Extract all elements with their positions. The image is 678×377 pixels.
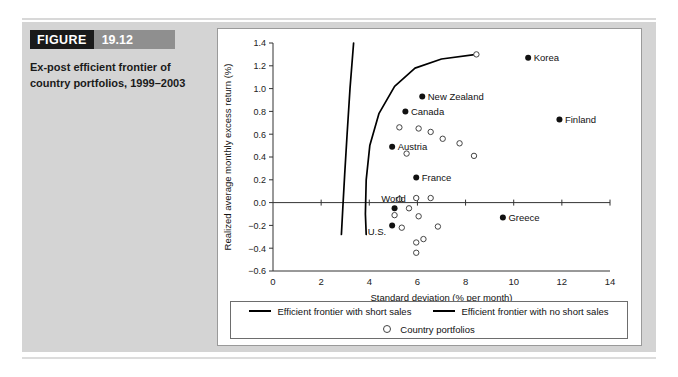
y-tick-label: 1.0 bbox=[253, 84, 266, 94]
labeled-country-point bbox=[392, 205, 398, 211]
bottom-divider bbox=[22, 357, 656, 359]
labeled-country-point bbox=[389, 222, 395, 228]
y-tick-label: 1.2 bbox=[253, 61, 266, 71]
chart-legend: Efficient frontier with short sales Effi… bbox=[230, 301, 628, 339]
country-portfolio-point bbox=[474, 52, 479, 57]
legend-row-frontiers: Efficient frontier with short sales Effi… bbox=[231, 302, 627, 320]
country-portfolio-point bbox=[397, 125, 402, 130]
x-tick-label: 10 bbox=[508, 276, 519, 287]
country-point-label: U.S. bbox=[368, 226, 386, 237]
legend-row-portfolios: Country portfolios bbox=[231, 320, 627, 338]
country-point-label: Korea bbox=[534, 52, 560, 63]
frontier-with-short-sales bbox=[341, 43, 353, 235]
y-tick-label: 0.2 bbox=[253, 175, 266, 185]
x-tick-label: 4 bbox=[367, 276, 372, 287]
y-axis-label: Realized average monthly excess return (… bbox=[222, 64, 233, 251]
country-point-label: New Zealand bbox=[428, 91, 484, 102]
country-point-label: World bbox=[381, 193, 406, 204]
figure-description: Ex-post efficient frontier of country po… bbox=[30, 60, 190, 92]
country-point-label: Finland bbox=[565, 114, 596, 125]
country-point-label: Canada bbox=[411, 106, 445, 117]
legend-label-short-sales: Efficient frontier with short sales bbox=[277, 306, 411, 317]
country-portfolio-point bbox=[414, 195, 419, 200]
line-icon bbox=[249, 310, 271, 312]
country-point-label: France bbox=[422, 172, 452, 183]
open-circle-icon bbox=[383, 325, 391, 333]
labeled-country-point bbox=[413, 175, 419, 181]
x-tick-label: 8 bbox=[463, 276, 468, 287]
country-portfolio-point bbox=[471, 153, 476, 158]
legend-label-country-portfolios: Country portfolios bbox=[400, 324, 474, 335]
figure-tag-word: FIGURE bbox=[30, 30, 94, 49]
labeled-country-point bbox=[402, 108, 408, 114]
country-portfolio-point bbox=[414, 240, 419, 245]
country-portfolio-point bbox=[440, 136, 445, 141]
labeled-country-point bbox=[500, 214, 506, 220]
labeled-country-point bbox=[556, 116, 562, 122]
country-portfolio-point bbox=[435, 224, 440, 229]
country-portfolio-point bbox=[457, 141, 462, 146]
labeled-country-point bbox=[525, 55, 531, 61]
y-tick-label: −0.4 bbox=[248, 244, 266, 254]
y-tick-label: 0.4 bbox=[253, 152, 266, 162]
country-point-label: Greece bbox=[508, 212, 539, 223]
y-tick-label: 1.4 bbox=[253, 38, 266, 48]
y-tick-label: 0.8 bbox=[253, 107, 266, 117]
labeled-country-point bbox=[419, 94, 425, 100]
country-portfolio-point bbox=[392, 212, 397, 217]
figure-tag-number: 19.12 bbox=[94, 30, 175, 49]
chart-panel: −0.6−0.4−0.20.00.20.40.60.81.01.21.40246… bbox=[217, 28, 642, 346]
top-divider bbox=[22, 18, 656, 20]
x-tick-label: 0 bbox=[270, 276, 275, 287]
legend-item-no-short-sales: Efficient frontier with no short sales bbox=[433, 306, 608, 317]
scatter-plot: −0.6−0.4−0.20.00.20.40.60.81.01.21.40246… bbox=[218, 29, 641, 345]
country-portfolio-point bbox=[416, 126, 421, 131]
labeled-country-point bbox=[389, 144, 395, 150]
country-portfolio-point bbox=[416, 214, 421, 219]
legend-item-short-sales: Efficient frontier with short sales bbox=[249, 306, 411, 317]
x-tick-label: 6 bbox=[415, 276, 420, 287]
country-portfolio-point bbox=[406, 206, 411, 211]
country-portfolio-point bbox=[421, 236, 426, 241]
x-tick-label: 12 bbox=[557, 276, 568, 287]
country-portfolio-point bbox=[414, 250, 419, 255]
country-portfolio-point bbox=[399, 225, 404, 230]
figure-tag: FIGURE 19.12 bbox=[30, 30, 175, 49]
y-tick-label: −0.6 bbox=[248, 266, 266, 276]
y-tick-label: 0.0 bbox=[253, 198, 266, 208]
line-icon bbox=[433, 310, 455, 312]
figure-caption-block: FIGURE 19.12 Ex-post efficient frontier … bbox=[30, 30, 205, 92]
legend-label-no-short-sales: Efficient frontier with no short sales bbox=[461, 306, 608, 317]
x-tick-label: 14 bbox=[605, 276, 616, 287]
country-portfolio-point bbox=[428, 129, 433, 134]
country-point-label: Austria bbox=[398, 141, 428, 152]
y-tick-label: 0.6 bbox=[253, 130, 266, 140]
country-portfolio-point bbox=[428, 195, 433, 200]
y-tick-label: −0.2 bbox=[248, 221, 266, 231]
figure-page: FIGURE 19.12 Ex-post efficient frontier … bbox=[0, 0, 678, 377]
x-tick-label: 2 bbox=[318, 276, 323, 287]
legend-item-country-portfolios: Country portfolios bbox=[383, 324, 474, 335]
